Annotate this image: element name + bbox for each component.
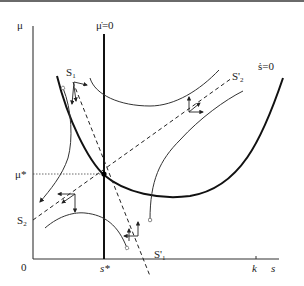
mu-dot-zero-label: μ̇=0: [96, 19, 114, 31]
s1-prime-label: S'1: [154, 248, 166, 262]
direction-arrows: [58, 82, 203, 241]
s-star-label: s*: [100, 262, 110, 274]
s1-label: S1: [66, 66, 76, 80]
equilibrium-point: [101, 171, 106, 176]
origin-label: 0: [21, 261, 27, 273]
axes: [33, 26, 279, 259]
s2-prime-label: S'2: [232, 70, 244, 84]
trajectory-right: [150, 91, 243, 220]
x-axis-label: s: [271, 262, 275, 274]
k-label: k: [252, 262, 258, 274]
mu-star-label: μ*: [15, 168, 26, 180]
s2-label: S2: [17, 214, 27, 228]
y-axis-label: μ: [17, 19, 23, 31]
phase-diagram: μ μ̇=0 ṡ=0 S1 S'2 S2 S'1 μ* 0 s* k s: [0, 0, 304, 286]
separatrix-s1: [73, 82, 150, 276]
trajectories: [40, 70, 243, 248]
trajectory-lower: [45, 213, 127, 248]
s-dot-zero-label: ṡ=0: [258, 60, 274, 72]
